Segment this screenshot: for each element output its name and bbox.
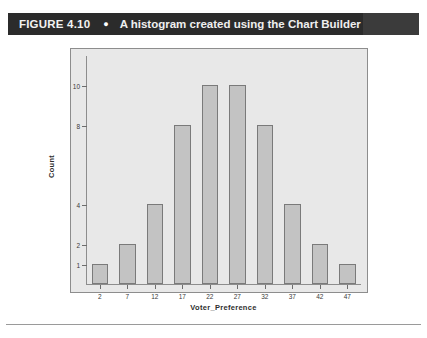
x-axis-tick-label: 7 xyxy=(125,293,129,300)
x-axis-tick-label: 12 xyxy=(151,293,158,300)
x-axis-tick-label: 22 xyxy=(206,293,213,300)
x-axis-title: Voter_Preference xyxy=(190,303,256,312)
histogram-bar xyxy=(174,125,191,284)
x-axis-tick xyxy=(155,285,156,289)
y-axis-tick-label: 1 xyxy=(76,262,80,269)
y-axis-tick xyxy=(82,245,87,246)
y-axis-tick-label: 8 xyxy=(76,122,80,129)
bullet-icon: ● xyxy=(103,20,108,29)
x-axis-tick xyxy=(265,285,266,289)
x-axis-tick-label: 17 xyxy=(179,293,186,300)
x-axis-tick-label: 2 xyxy=(98,293,102,300)
y-axis-title: Count xyxy=(47,155,56,178)
y-axis-tick-label: 4 xyxy=(76,202,80,209)
x-axis-tick xyxy=(127,285,128,289)
histogram-bar xyxy=(284,204,301,284)
y-axis-tick-label: 10 xyxy=(73,82,80,89)
x-axis-tick xyxy=(292,285,293,289)
histogram-bar xyxy=(202,85,219,284)
figure-number: FIGURE 4.10 xyxy=(19,18,90,30)
x-axis-tick xyxy=(237,285,238,289)
histogram-bar xyxy=(339,264,356,284)
x-axis-tick xyxy=(100,285,101,289)
x-axis-tick-label: 32 xyxy=(261,293,268,300)
x-axis-tick xyxy=(210,285,211,289)
histogram-bar xyxy=(92,264,109,284)
histogram-bar xyxy=(147,204,164,284)
y-axis-tick-label: 2 xyxy=(76,242,80,249)
x-axis-tick-label: 42 xyxy=(316,293,323,300)
figure-caption-text: A histogram created using the Chart Buil… xyxy=(120,18,361,30)
y-axis-tick xyxy=(82,205,87,206)
x-axis-tick xyxy=(320,285,321,289)
histogram-bar xyxy=(257,125,274,284)
y-axis-line xyxy=(86,56,87,285)
x-axis-tick-label: 37 xyxy=(289,293,296,300)
caption-bar-tail xyxy=(363,13,419,35)
histogram-bar xyxy=(312,244,329,284)
y-axis-tick xyxy=(82,86,87,87)
figure-caption-bar: FIGURE 4.10 ● A histogram created using … xyxy=(8,13,419,35)
histogram-plot-area: 124810 271217222732374247 Voter_Preferen… xyxy=(86,56,361,285)
bottom-rule xyxy=(6,324,421,325)
y-axis-tick xyxy=(82,265,87,266)
x-axis-tick xyxy=(347,285,348,289)
x-axis-tick xyxy=(182,285,183,289)
x-axis-tick-label: 27 xyxy=(234,293,241,300)
histogram-bar xyxy=(229,85,246,284)
x-axis-tick-label: 47 xyxy=(344,293,351,300)
y-axis-tick xyxy=(82,126,87,127)
histogram-bar xyxy=(119,244,136,284)
